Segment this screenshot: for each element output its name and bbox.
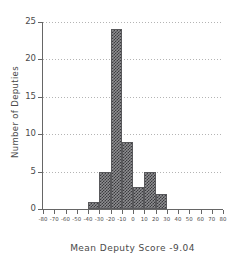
y-tick-mark: [38, 97, 42, 98]
x-tick-mark: [99, 210, 100, 214]
x-tick-mark: [88, 210, 89, 214]
y-tick-label: 0: [31, 203, 36, 213]
x-tick-mark: [77, 210, 78, 214]
x-tick-label: 20: [152, 216, 159, 222]
x-tick-label: 80: [219, 216, 226, 222]
x-tick-label: -80: [38, 216, 47, 222]
x-tick-label: 70: [208, 216, 215, 222]
x-tick-label: -50: [72, 216, 81, 222]
x-tick-label: 50: [186, 216, 193, 222]
histogram-bar: [99, 172, 110, 209]
x-tick-mark: [189, 210, 190, 214]
x-tick-label: -10: [117, 216, 126, 222]
histogram-bar: [111, 29, 122, 209]
y-tick-label: 5: [31, 166, 36, 176]
histogram-bar: [133, 187, 144, 209]
histogram-bar: [156, 194, 167, 209]
y-tick-mark: [38, 134, 42, 135]
x-tick-mark: [43, 210, 44, 214]
x-tick-mark: [167, 210, 168, 214]
x-tick-mark: [111, 210, 112, 214]
y-axis-title: Number of Deputies: [10, 12, 24, 212]
x-tick-mark: [54, 210, 55, 214]
x-tick-label: -60: [61, 216, 70, 222]
y-tick-label: 25: [25, 16, 36, 26]
x-tick-mark: [212, 210, 213, 214]
x-tick-label: 60: [197, 216, 204, 222]
histogram-figure: Number of Deputies 0510152025 -80-70-60-…: [0, 0, 247, 266]
x-tick-mark: [201, 210, 202, 214]
x-tick-label: 10: [141, 216, 148, 222]
x-tick-mark: [178, 210, 179, 214]
x-tick-mark: [223, 210, 224, 214]
x-tick-mark: [133, 210, 134, 214]
x-tick-mark: [144, 210, 145, 214]
y-tick-mark: [38, 22, 42, 23]
y-tick-label: 10: [25, 128, 36, 138]
x-tick-label: 40: [174, 216, 181, 222]
histogram-bar: [122, 142, 133, 209]
y-tick-mark: [38, 172, 42, 173]
plot-area: 0510152025 -80-70-60-50-40-30-20-1001020…: [42, 22, 223, 209]
x-tick-label: -30: [95, 216, 104, 222]
x-tick-label: 0: [131, 216, 135, 222]
x-tick-mark: [122, 210, 123, 214]
y-tick-mark: [38, 209, 42, 210]
histogram-bar: [88, 202, 99, 209]
x-axis-title: Mean Deputy Score -9.04: [42, 243, 223, 253]
x-tick-label: -20: [106, 216, 115, 222]
y-tick-label: 15: [25, 91, 36, 101]
x-tick-mark: [156, 210, 157, 214]
x-tick-label: -40: [83, 216, 92, 222]
x-tick-label: 30: [163, 216, 170, 222]
y-tick-label: 20: [25, 53, 36, 63]
histogram-bar: [144, 172, 155, 209]
histogram-bars: [43, 22, 223, 209]
y-tick-mark: [38, 59, 42, 60]
x-tick-label: -70: [50, 216, 59, 222]
x-tick-mark: [66, 210, 67, 214]
